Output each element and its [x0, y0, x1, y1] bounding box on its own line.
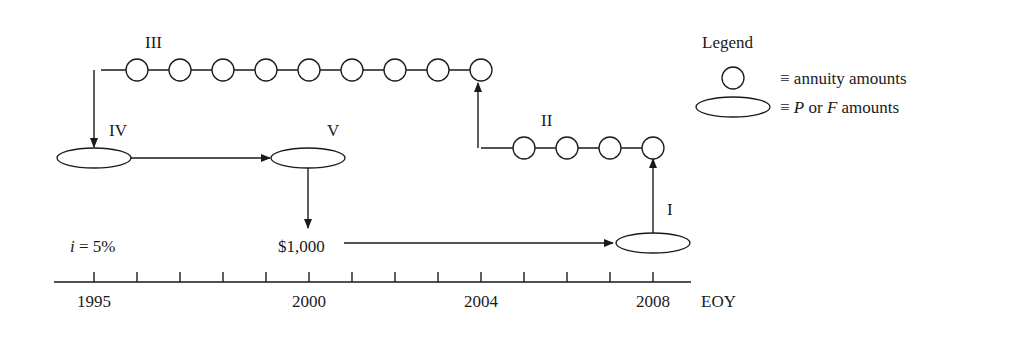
- step-label-IV: IV: [109, 121, 128, 140]
- legend-title: Legend: [702, 33, 753, 52]
- cash-flow-diagram: 1995 2000 2004 2008 EOY i = 5% $1,000 I …: [0, 0, 1011, 339]
- legend-pf-text: ≡ P or F amounts: [780, 98, 899, 117]
- ellipse-I-future-amount: [616, 233, 690, 253]
- year-label-2008: 2008: [636, 292, 670, 311]
- annuity-circle: [255, 59, 277, 81]
- annuity-III: [101, 59, 492, 81]
- amount-label: $1,000: [278, 237, 325, 256]
- legend-circle-icon: [722, 67, 744, 89]
- interest-value: = 5%: [75, 237, 116, 256]
- step-label-I: I: [667, 200, 673, 219]
- step-label-II: II: [541, 111, 553, 130]
- year-label-2004: 2004: [464, 292, 499, 311]
- annuity-circle: [126, 59, 148, 81]
- annuity-II: [481, 137, 664, 159]
- ellipse-V-amount: [271, 148, 345, 168]
- legend-annuity-text: ≡ annuity amounts: [780, 69, 907, 88]
- annuity-circle: [341, 59, 363, 81]
- annuity-circle: [298, 59, 320, 81]
- step-label-III: III: [145, 33, 162, 52]
- annuity-circle: [212, 59, 234, 81]
- annuity-circle: [556, 137, 578, 159]
- annuity-circle: [169, 59, 191, 81]
- axis-unit-label: EOY: [701, 292, 736, 311]
- step-label-V: V: [327, 121, 340, 140]
- annuity-circle: [427, 59, 449, 81]
- annuity-circle: [513, 137, 535, 159]
- year-label-2000: 2000: [292, 292, 326, 311]
- ellipse-IV-present-amount: [57, 148, 131, 168]
- axis-ticks: [94, 272, 653, 282]
- time-axis: 1995 2000 2004 2008 EOY: [54, 272, 736, 311]
- annuity-circle: [642, 137, 664, 159]
- annuity-circle: [599, 137, 621, 159]
- annuity-circle: [384, 59, 406, 81]
- legend-ellipse-icon: [696, 97, 770, 117]
- year-label-1995: 1995: [77, 292, 111, 311]
- legend: Legend ≡ annuity amounts ≡ P or F amount…: [696, 33, 907, 117]
- interest-rate-label: i = 5%: [70, 237, 115, 256]
- annuity-circle: [470, 59, 492, 81]
